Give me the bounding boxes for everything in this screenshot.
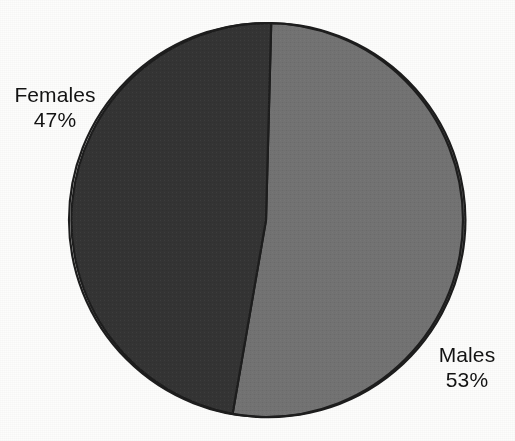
slice-label-males-name: Males	[430, 342, 504, 367]
slice-label-males: Males 53%	[430, 342, 504, 392]
pie-chart-figure: Females 47% Males 53%	[0, 0, 515, 441]
slice-label-females-percent: 47%	[8, 107, 102, 132]
slice-label-males-percent: 53%	[430, 367, 504, 392]
slice-label-females-name: Females	[8, 82, 102, 107]
slice-label-females: Females 47%	[8, 82, 102, 132]
